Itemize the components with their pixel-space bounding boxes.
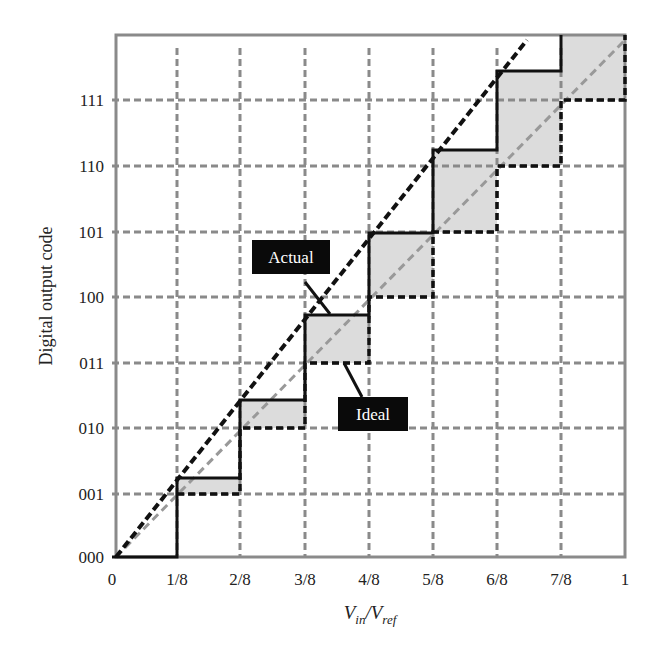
callout-actual-label: Actual (268, 248, 314, 267)
y-tick-101: 101 (79, 223, 105, 242)
x-axis-ticks: 0 1/8 2/8 3/8 4/8 5/8 6/8 7/8 1 (108, 570, 630, 589)
x-label-sub-ref: ref (382, 612, 398, 627)
y-tick-010: 010 (79, 419, 105, 438)
x-tick-1: 1 (621, 570, 630, 589)
x-tick-1-8: 1/8 (166, 570, 188, 589)
x-tick-4-8: 4/8 (358, 570, 380, 589)
y-axis-label: Digital output code (36, 227, 56, 366)
y-tick-001: 001 (79, 485, 105, 504)
x-tick-0: 0 (108, 570, 117, 589)
x-tick-3-8: 3/8 (294, 570, 316, 589)
x-tick-6-8: 6/8 (486, 570, 508, 589)
y-tick-100: 100 (79, 288, 105, 307)
callout-ideal: Ideal (338, 363, 408, 431)
x-tick-5-8: 5/8 (422, 570, 444, 589)
y-tick-110: 110 (79, 157, 104, 176)
x-tick-2-8: 2/8 (229, 570, 251, 589)
y-tick-000: 000 (79, 548, 105, 567)
x-tick-7-8: 7/8 (550, 570, 572, 589)
y-tick-111: 111 (80, 91, 104, 110)
y-axis-ticks: 000 001 010 011 100 101 110 111 (79, 91, 105, 567)
callout-ideal-label: Ideal (356, 405, 390, 424)
x-label-sub-in: in (355, 612, 365, 627)
adc-transfer-chart: Actual Ideal 000 001 010 011 100 101 110… (0, 0, 666, 656)
y-tick-011: 011 (79, 354, 104, 373)
x-axis-label: Vin/Vref (344, 602, 399, 627)
